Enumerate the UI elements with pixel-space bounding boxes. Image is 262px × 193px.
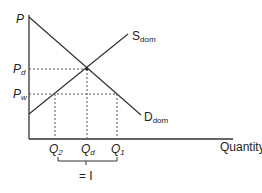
q2-label: Q2 bbox=[49, 142, 63, 157]
y-axis-label: P bbox=[16, 12, 24, 26]
pd-label: Pd bbox=[13, 62, 26, 77]
demand-label: Ddom bbox=[144, 110, 169, 125]
supply-label: Sdom bbox=[132, 29, 156, 44]
imports-bracket bbox=[58, 157, 117, 165]
supply-curve bbox=[29, 34, 128, 114]
supply-demand-diagram: P Pd Pw Sdom Ddom Q2 Qd Q1 Quantity = I bbox=[0, 0, 262, 193]
pw-label: Pw bbox=[13, 87, 28, 102]
imports-label: = I bbox=[79, 169, 93, 183]
qd-label: Qd bbox=[81, 142, 95, 157]
x-axis-label: Quantity bbox=[220, 140, 262, 154]
equilibrium-point bbox=[85, 67, 88, 70]
q1-label: Q1 bbox=[111, 142, 125, 157]
